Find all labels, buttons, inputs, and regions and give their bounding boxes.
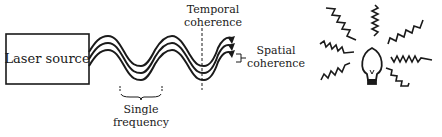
single-label-line1: Single [123, 103, 158, 116]
coherence-diagram: Laser source Temporal coherence Spatial … [0, 0, 442, 137]
temporal-label-line2: coherence [184, 16, 242, 29]
ray-icon [321, 63, 350, 80]
ray-icon [320, 41, 354, 53]
squiggly-rays [320, 5, 432, 86]
wave-bottom [89, 50, 232, 80]
spatial-bracket-icon [236, 54, 246, 62]
ray-icon [388, 20, 423, 44]
ray-icon [386, 68, 409, 86]
laser-source-label: Laser source [4, 51, 89, 66]
spatial-label-line1: Spatial [256, 44, 296, 57]
single-frequency: Single frequency [113, 86, 170, 129]
ray-icon [391, 56, 432, 62]
coherent-waves [89, 36, 235, 80]
ray-icon [372, 5, 378, 36]
single-label-line2: frequency [113, 116, 170, 129]
laser-source: Laser source [4, 34, 89, 84]
temporal-label-line1: Temporal [187, 3, 240, 16]
bulb-icon [362, 48, 381, 84]
wave-middle [89, 43, 232, 73]
spatial-label-line2: coherence [247, 57, 305, 70]
ray-icon [326, 8, 356, 40]
incoherent-light-bulb [320, 5, 432, 86]
spatial-coherence: Spatial coherence [236, 44, 305, 70]
frequency-brace-icon [121, 94, 161, 100]
